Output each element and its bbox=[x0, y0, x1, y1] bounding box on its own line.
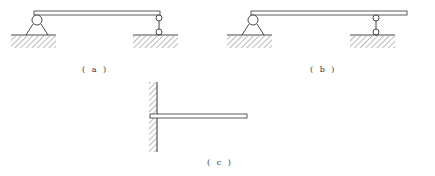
beam-b bbox=[251, 11, 407, 15]
panel-c-label: ( c ) bbox=[207, 158, 233, 167]
panel-b-beam-diagram bbox=[227, 11, 407, 48]
panel-a-beam-diagram bbox=[11, 11, 178, 48]
diagram-canvas bbox=[0, 0, 435, 176]
panel-a-label: ( a ) bbox=[82, 65, 108, 74]
link-support-icon bbox=[133, 15, 178, 48]
beam-a bbox=[34, 11, 160, 15]
panel-b-label: ( b ) bbox=[310, 65, 336, 74]
link-support-icon bbox=[350, 15, 395, 48]
beam-c bbox=[150, 114, 247, 118]
panel-c-cantilever-diagram bbox=[149, 82, 247, 152]
pin-support-icon bbox=[11, 15, 56, 48]
pin-support-icon bbox=[227, 15, 272, 48]
